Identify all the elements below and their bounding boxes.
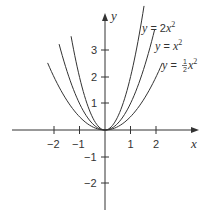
x-axis-arrow-icon (191, 127, 199, 133)
curve-2x-squared (71, 6, 144, 130)
svg-text:1: 1 (183, 58, 187, 65)
svg-text:y =: y = (161, 58, 177, 72)
curve-label-half-x-squared: y = 1 2 x2 (161, 57, 197, 73)
x-tick-label: 2 (153, 138, 159, 150)
y-tick-label: −1 (84, 151, 97, 163)
x-tick-label: −1 (72, 138, 85, 150)
x-axis-label: x (190, 136, 197, 151)
y-tick-label: 1 (91, 97, 97, 109)
y-axis-arrow-icon (102, 13, 108, 21)
y-axis-label: y (109, 8, 117, 23)
x-tick-label: 1 (128, 138, 134, 150)
svg-text:2: 2 (183, 66, 187, 73)
parabola-chart: −2 −1 1 2 3 2 1 −1 −2 x y y = 2x2 y = x2… (0, 0, 213, 221)
curve-x-squared (59, 29, 155, 130)
y-tick-label: 3 (91, 44, 97, 56)
svg-text:x2: x2 (187, 57, 197, 72)
y-tick-label: 2 (91, 71, 97, 83)
curve-label-2x-squared: y = 2x2 (141, 20, 175, 35)
curve-label-x-squared: y = x2 (154, 38, 182, 53)
x-tick-label: −2 (47, 138, 60, 150)
y-tick-label: −2 (84, 177, 97, 189)
